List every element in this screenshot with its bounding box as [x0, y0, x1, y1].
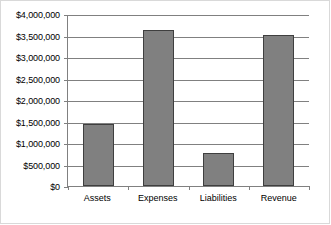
x-axis-label-expenses: Expenses [128, 193, 189, 203]
y-axis-tick-label: $4,000,000 [16, 10, 60, 20]
chart-frame: $4,000,000$3,500,000$3,000,000$2,500,000… [0, 0, 330, 224]
x-axis-tick [68, 186, 69, 190]
bar-liabilities[interactable] [203, 153, 234, 186]
x-axis-tick [309, 186, 310, 190]
x-axis-labels: AssetsExpensesLiabilitiesRevenue [67, 193, 309, 203]
bars [68, 15, 309, 186]
y-axis-tick-label: $1,000,000 [16, 139, 60, 149]
bar-expenses[interactable] [143, 30, 174, 186]
bar-slot [189, 15, 249, 186]
y-axis-tick-label: $500,000 [23, 161, 60, 171]
x-axis-label-assets: Assets [67, 193, 128, 203]
bar-slot [249, 15, 309, 186]
x-axis-tick [128, 186, 129, 190]
bar-slot [128, 15, 188, 186]
x-axis-label-revenue: Revenue [249, 193, 310, 203]
x-axis-tick [189, 186, 190, 190]
x-axis-label-liabilities: Liabilities [188, 193, 249, 203]
y-axis-tick-label: $1,500,000 [16, 118, 60, 128]
bar-slot [68, 15, 128, 186]
plot-area [67, 15, 309, 187]
y-axis-tick-label: $3,500,000 [16, 32, 60, 42]
y-axis-tick-label: $0 [50, 182, 60, 192]
x-axis-tick [249, 186, 250, 190]
bar-revenue[interactable] [263, 35, 294, 186]
bar-assets[interactable] [83, 124, 114, 186]
y-axis-tick-label: $2,500,000 [16, 75, 60, 85]
y-axis-tick-label: $3,000,000 [16, 53, 60, 63]
y-axis-tick-label: $2,000,000 [16, 96, 60, 106]
